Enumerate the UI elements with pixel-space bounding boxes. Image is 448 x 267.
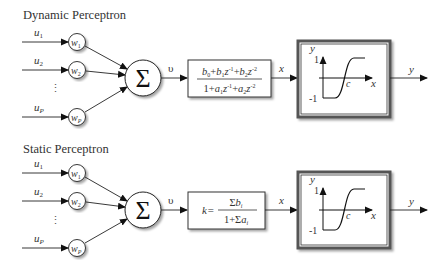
input-2: u2 w2 [22,54,125,79]
inputs-ellipsis: ⋮ [50,82,61,94]
inputs-ellipsis: ⋮ [50,214,61,226]
activation-y-max: 1 [314,185,319,196]
input-p: uP wP [22,87,127,126]
transfer-output-label: x [278,62,284,74]
activation-y-min: -1 [309,93,317,104]
gain-label: k= [202,204,214,216]
activation-x-label: x [370,209,376,221]
transfer-output-label: x [278,194,284,206]
activation-block: y 1 -1 c x [298,172,390,248]
input-label-u2: u2 [34,54,44,68]
input-label-up: uP [34,101,45,115]
activation-x-label: x [370,77,376,89]
svg-text:uP: uP [34,232,45,246]
svg-text:u2: u2 [34,185,44,199]
output-label: y [408,63,414,75]
activation-y-label: y [309,42,315,54]
activation-y-max: 1 [314,54,319,65]
sum-output-label: υ [168,194,174,206]
activation-center-label: c [346,210,351,221]
sum-output-label: υ [168,62,174,74]
sigma-symbol: Σ [135,196,150,225]
input-label-u1: u1 [34,26,44,40]
input-p: uP wP [22,219,127,257]
input-2: u2 w2 [22,185,125,210]
gain-denominator: 1+Σai [224,214,249,226]
gain-numerator: Σbi [229,197,242,209]
dynamic-perceptron-diagram: u1 w1 u2 w2 ⋮ uP wP Σ υ b0+b1z- [22,26,427,126]
activation-y-min: -1 [309,225,317,236]
activation-block: y 1 -1 c x [298,41,390,117]
output-label: y [408,195,414,207]
activation-y-label: y [309,173,315,185]
static-perceptron-diagram: u1 w1 u2 w2 ⋮ uP wP Σ υ k= Σbi 1+Σai [22,157,427,257]
svg-text:u1: u1 [34,157,44,171]
sigma-symbol: Σ [135,64,150,93]
activation-center-label: c [346,78,351,89]
